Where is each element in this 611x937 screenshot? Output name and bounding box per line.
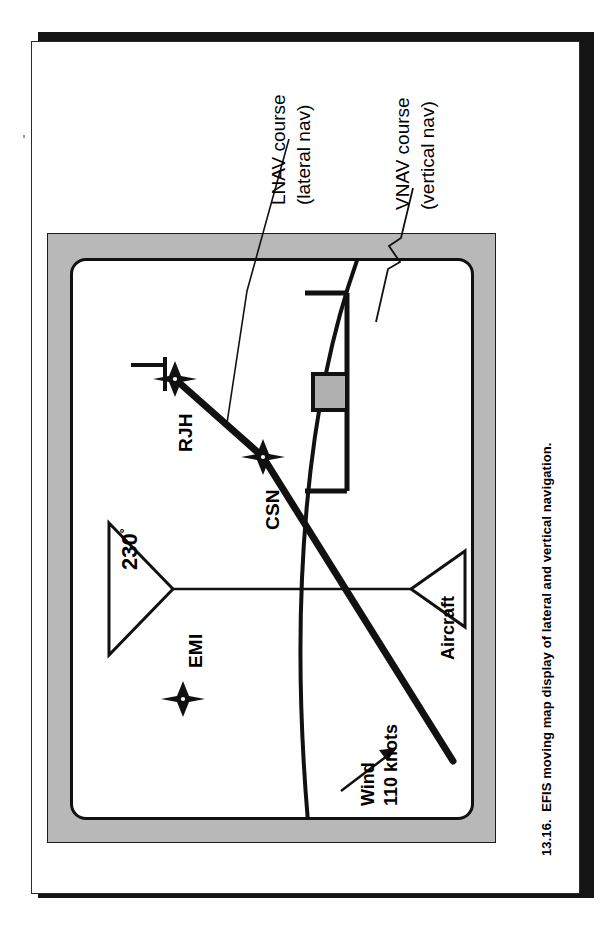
aircraft-label: Aircraft [438, 596, 458, 660]
waypoint-label-emi: EMI [185, 634, 206, 668]
wind-label-line1: Wind [358, 762, 378, 806]
figure-13-16: LNAV course (lateral nav) VNAV course (v… [0, 0, 611, 937]
degree-symbol: ° [118, 528, 132, 533]
range-arc [300, 261, 359, 820]
scanned-page-canvas: LNAV course (lateral nav) VNAV course (v… [0, 0, 611, 937]
callout-vnav-line1: VNAV course [392, 97, 413, 210]
wind-label-line2: 110 knots [381, 724, 401, 806]
vnav-deviation-pointer [313, 374, 347, 410]
heading-value: 230 [117, 533, 142, 570]
lnav-course-leg-aircraft-csn [263, 457, 453, 761]
figure-caption: 13.16. EFIS moving map display of latera… [540, 443, 555, 856]
callout-lnav-line1: LNAV course [268, 94, 289, 205]
waypoint-label-csn: CSN [262, 489, 283, 530]
heading-indicator-label: 230° [118, 528, 143, 570]
waypoint-star-emi [161, 681, 205, 717]
callout-lnav-line2: (lateral nav) [293, 105, 314, 205]
callout-vnav-line2: (vertical nav) [417, 101, 438, 210]
waypoint-label-rjh: RJH [175, 413, 196, 452]
